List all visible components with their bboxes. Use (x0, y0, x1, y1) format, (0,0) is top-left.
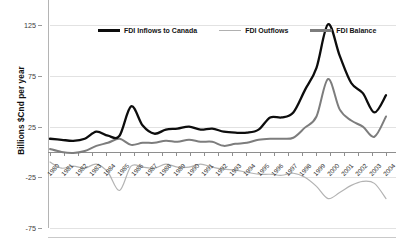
legend-label-balance: FDI Balance (336, 27, 376, 34)
x-axis-bottom-line (48, 237, 396, 238)
gridline (50, 228, 396, 229)
y-tick-mark (38, 127, 42, 128)
legend-item-outflows: FDI Outflows (219, 27, 288, 34)
legend-swatch-inflows-icon (98, 29, 120, 31)
plot-area (50, 10, 396, 228)
y-tick-label-125: 125 (2, 21, 36, 30)
y-tick-label-neg25: -25 (2, 173, 36, 182)
y-tick-mark (38, 228, 42, 229)
legend-item-balance: FDI Balance (310, 27, 376, 34)
y-tick-label-75: 75 (2, 72, 36, 81)
legend-swatch-outflows-icon (219, 30, 241, 31)
series-line-balance (50, 79, 386, 153)
legend-label-inflows: FDI Inflows to Canada (124, 27, 197, 34)
legend-label-outflows: FDI Outflows (245, 27, 288, 34)
legend-item-inflows: FDI Inflows to Canada (98, 27, 197, 34)
legend-swatch-balance-icon (310, 29, 332, 31)
y-axis-line (48, 0, 49, 228)
fdi-line-chart: Billions $Cnd per year 1257525-25-75 198… (0, 0, 415, 244)
y-axis-tick-labels: 1257525-25-75 (2, 0, 36, 244)
y-tick-mark (38, 25, 42, 26)
chart-legend: FDI Inflows to Canada FDI Outflows FDI B… (98, 27, 376, 34)
series-line-inflows (50, 24, 386, 141)
y-tick-mark (38, 76, 42, 77)
series-lines (50, 10, 396, 228)
y-tick-label-neg75: -75 (2, 224, 36, 233)
y-tick-label-25: 25 (2, 123, 36, 132)
